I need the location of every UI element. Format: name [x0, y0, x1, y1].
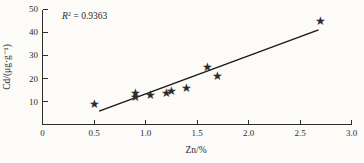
scatter-chart-figure: 1020304050 00.51.01.52.02.53.0 ★★★★★★★★★…	[0, 0, 364, 163]
x-tick-label: 1.0	[140, 128, 152, 138]
y-tick-label: 20	[29, 74, 39, 84]
r-value: = 0.9363	[71, 11, 107, 21]
y-tick-label: 30	[29, 50, 39, 60]
y-axis-label: Cd/(μg·g⁻¹)	[2, 44, 13, 90]
y-tick-label: 40	[29, 27, 39, 37]
data-point-star: ★	[315, 15, 326, 27]
x-axis-ticks: 00.51.01.52.02.53.0	[40, 120, 357, 139]
r-squared-annotation: R2 = 0.9363	[61, 10, 108, 21]
data-points-group: ★★★★★★★★★★	[89, 15, 327, 111]
x-tick-label: 2.0	[243, 128, 255, 138]
data-point-star: ★	[181, 82, 192, 94]
y-axis-ticks: 1020304050	[29, 4, 48, 107]
x-tick-label: 0.5	[88, 128, 100, 138]
x-tick-label: 3.0	[346, 128, 358, 138]
x-tick-label: 1.5	[191, 128, 203, 138]
data-point-star: ★	[166, 85, 177, 97]
scatter-chart-canvas: 1020304050 00.51.01.52.02.53.0 ★★★★★★★★★…	[0, 0, 364, 163]
y-tick-label: 50	[29, 4, 39, 14]
x-axis-label: Zn/%	[185, 145, 206, 155]
data-point-star: ★	[145, 89, 156, 101]
data-point-star: ★	[130, 91, 141, 103]
x-tick-label: 0	[40, 128, 45, 138]
data-point-star: ★	[89, 98, 100, 110]
x-tick-label: 2.5	[294, 128, 306, 138]
data-point-star: ★	[212, 70, 223, 82]
y-tick-label: 10	[29, 97, 39, 107]
